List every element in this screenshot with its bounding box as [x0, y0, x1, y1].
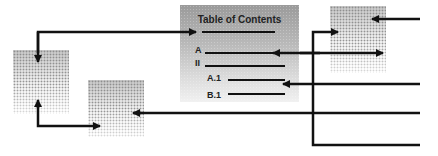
link-left-to-toc — [38, 32, 196, 53]
link-wires — [0, 0, 438, 156]
link-bus-to-right-box — [313, 32, 420, 145]
link-left-to-mid — [38, 105, 100, 126]
